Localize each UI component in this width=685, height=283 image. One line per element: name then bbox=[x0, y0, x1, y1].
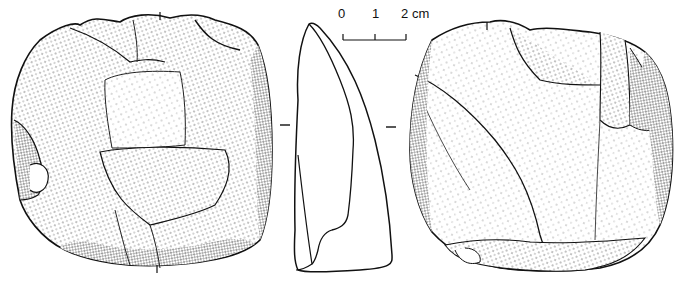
scale-unit-label: cm bbox=[412, 6, 429, 21]
scale-tick-2-label: 2 bbox=[401, 6, 408, 21]
scale-bar bbox=[343, 34, 406, 40]
artifact-illustration: 0 1 2 cm bbox=[0, 0, 685, 283]
front-face-view bbox=[12, 12, 272, 273]
scale-tick-1-label: 1 bbox=[372, 6, 379, 21]
scale-tick-0-label: 0 bbox=[338, 6, 345, 21]
reverse-face-view bbox=[410, 21, 673, 271]
side-profile-view bbox=[280, 23, 396, 272]
